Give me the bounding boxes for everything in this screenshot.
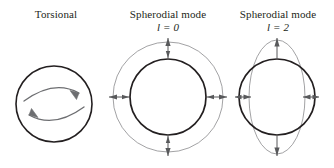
equilibrium-circle xyxy=(130,59,206,135)
radial-arrow-down-icon xyxy=(165,136,170,156)
polar-arrow-up-icon xyxy=(274,38,279,58)
spheroidal-l2-diagram xyxy=(222,0,334,168)
torsional-diagram xyxy=(0,0,112,168)
panel-spheroidal-l0: Spherodial mode l = 0 xyxy=(110,0,226,168)
rotation-arrow-top-icon xyxy=(24,88,79,101)
rotation-arrow-bottom-icon xyxy=(29,107,84,120)
spheroidal-l0-diagram xyxy=(110,0,226,168)
equatorial-arrow-right-icon xyxy=(303,95,319,100)
panel-torsional: Torsional xyxy=(0,0,112,168)
equatorial-arrow-left-icon xyxy=(235,95,251,100)
radial-arrow-up-icon xyxy=(165,38,170,58)
panel-spheroidal-l2: Spherodial mode l = 2 xyxy=(222,0,334,168)
torsional-outer-circle xyxy=(16,66,92,142)
oscillation-modes-figure: Torsional Spherodial mode l = 0 xyxy=(0,0,334,168)
polar-arrow-down-icon xyxy=(274,136,279,156)
radial-arrow-left-icon xyxy=(109,94,129,99)
